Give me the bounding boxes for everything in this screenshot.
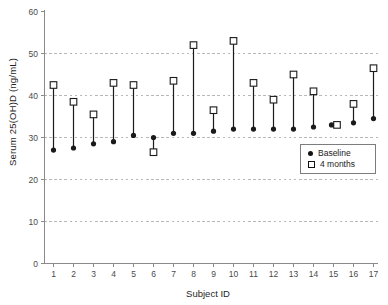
four-months-marker bbox=[210, 107, 217, 114]
baseline-marker bbox=[51, 148, 56, 153]
x-tick-label: 1 bbox=[51, 269, 56, 279]
y-axis-title: Serum 25(OH)D (ng/mL) bbox=[7, 58, 18, 166]
open-square-icon bbox=[308, 161, 315, 168]
x-tick-label: 6 bbox=[151, 269, 156, 279]
four-months-marker bbox=[50, 82, 57, 89]
four-months-marker bbox=[350, 101, 357, 108]
baseline-marker bbox=[351, 120, 356, 125]
baseline-marker bbox=[271, 127, 276, 132]
four-months-marker bbox=[130, 82, 137, 89]
four-months-marker bbox=[190, 42, 197, 49]
four-months-marker bbox=[90, 111, 97, 118]
baseline-marker bbox=[91, 141, 96, 146]
baseline-marker bbox=[231, 127, 236, 132]
baseline-marker bbox=[371, 116, 376, 121]
baseline-marker bbox=[171, 131, 176, 136]
legend-item-4-months: 4 months bbox=[308, 159, 375, 170]
x-tick-label: 16 bbox=[349, 269, 359, 279]
baseline-marker bbox=[111, 139, 116, 144]
y-tick-label: 10 bbox=[29, 217, 39, 227]
four-months-marker bbox=[270, 96, 277, 103]
legend-label-baseline: Baseline bbox=[318, 149, 351, 158]
x-tick-label: 9 bbox=[211, 269, 216, 279]
x-tick-label: 8 bbox=[191, 269, 196, 279]
x-tick-label: 4 bbox=[111, 269, 116, 279]
x-tick-label: 11 bbox=[249, 269, 258, 279]
baseline-marker bbox=[151, 135, 156, 140]
x-tick-label: 7 bbox=[171, 269, 176, 279]
baseline-marker bbox=[211, 129, 216, 134]
legend-label-4-months: 4 months bbox=[320, 160, 355, 169]
x-tick-label: 14 bbox=[309, 269, 319, 279]
four-months-marker bbox=[170, 78, 177, 85]
four-months-marker bbox=[110, 80, 117, 87]
y-tick-label: 40 bbox=[29, 91, 39, 101]
y-tick-label: 60 bbox=[29, 7, 39, 17]
baseline-marker bbox=[291, 127, 296, 132]
x-tick-label: 17 bbox=[369, 269, 379, 279]
x-tick-label: 10 bbox=[229, 269, 239, 279]
y-tick-label: 0 bbox=[33, 259, 38, 269]
y-tick-label: 20 bbox=[29, 175, 39, 185]
x-tick-label: 5 bbox=[131, 269, 136, 279]
four-months-marker bbox=[250, 80, 257, 87]
baseline-marker bbox=[71, 145, 76, 150]
y-tick-label: 30 bbox=[29, 133, 39, 143]
legend-item-baseline: Baseline bbox=[308, 148, 375, 159]
y-tick-label: 50 bbox=[29, 49, 39, 59]
baseline-marker bbox=[131, 133, 136, 138]
baseline-marker bbox=[251, 127, 256, 132]
vitamin-d-dumbbell-chart: 01020304050601234567891011121314151617 S… bbox=[0, 0, 388, 305]
x-tick-label: 15 bbox=[329, 269, 339, 279]
x-tick-label: 13 bbox=[289, 269, 299, 279]
four-months-marker bbox=[70, 99, 77, 106]
four-months-marker bbox=[230, 38, 237, 45]
x-tick-label: 12 bbox=[269, 269, 279, 279]
baseline-marker bbox=[329, 122, 334, 127]
legend-box: Baseline 4 months bbox=[300, 144, 376, 174]
four-months-marker bbox=[150, 149, 157, 156]
four-months-marker bbox=[290, 71, 297, 78]
baseline-marker bbox=[311, 124, 316, 129]
x-axis-title: Subject ID bbox=[186, 288, 230, 299]
filled-circle-icon bbox=[308, 151, 313, 156]
x-tick-label: 3 bbox=[91, 269, 96, 279]
x-tick-label: 2 bbox=[71, 269, 76, 279]
four-months-marker bbox=[334, 122, 341, 129]
four-months-marker bbox=[310, 88, 317, 95]
four-months-marker bbox=[370, 65, 377, 72]
baseline-marker bbox=[191, 131, 196, 136]
